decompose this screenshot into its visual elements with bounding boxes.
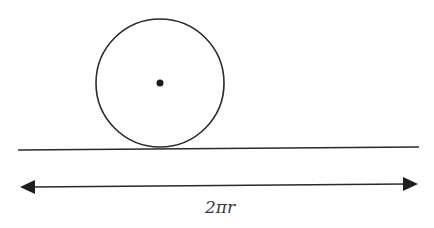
- left-arrowhead-icon: [20, 180, 35, 194]
- distance-label: 2πr: [196, 197, 244, 217]
- arrow-shaft: [32, 184, 406, 187]
- distance-arrow: [20, 177, 418, 194]
- right-arrowhead-icon: [403, 177, 418, 191]
- center-point: [157, 80, 164, 87]
- rolling-circle-diagram: 2πr: [0, 0, 434, 228]
- ground-line: [18, 147, 419, 150]
- diagram-svg: [0, 0, 434, 228]
